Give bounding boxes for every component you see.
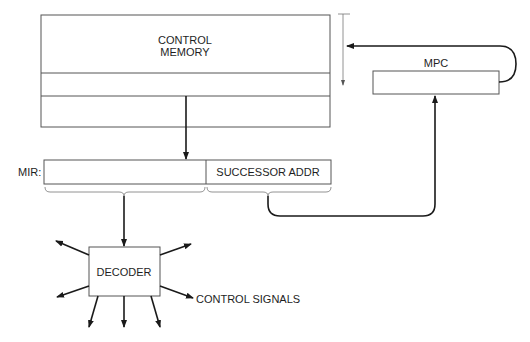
signal-arrow-bottom-left xyxy=(89,296,98,327)
signal-arrow-upper-right xyxy=(160,244,191,255)
signal-arrow-lower-right xyxy=(160,286,193,298)
signal-arrow-bottom-right xyxy=(151,296,160,327)
mir-label: MIR: xyxy=(18,166,41,178)
address-marker xyxy=(338,14,350,85)
mpc-box xyxy=(373,71,499,94)
mpc-label: MPC xyxy=(424,57,449,69)
control-memory-label-line2: MEMORY xyxy=(160,46,210,58)
control-memory-label-line1: CONTROL xyxy=(158,34,212,46)
microprogram-control-diagram: CONTROL MEMORY MPC MIR: SUCCESSOR ADDR D… xyxy=(0,0,530,342)
decoder-label: DECODER xyxy=(96,266,151,278)
signal-arrow-upper-left xyxy=(56,241,89,255)
decoder-block: DECODER xyxy=(89,247,160,296)
mpc-block: MPC xyxy=(347,46,516,94)
mir-block: MIR: SUCCESSOR ADDR xyxy=(18,160,331,184)
control-signals-label: CONTROL SIGNALS xyxy=(196,293,300,305)
mir-successor-field-label: SUCCESSOR ADDR xyxy=(216,166,319,178)
signal-arrow-lower-left xyxy=(57,286,89,297)
successor-field-brace xyxy=(207,187,331,196)
control-fields-brace xyxy=(45,187,205,196)
